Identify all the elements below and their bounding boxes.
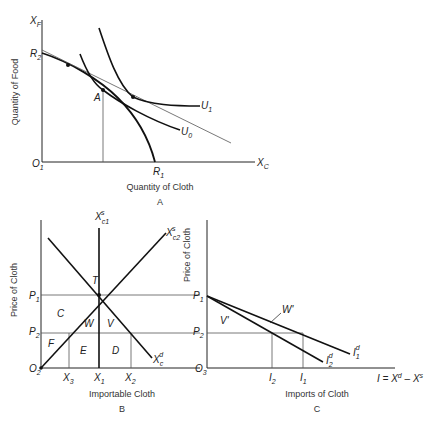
label-xc-demand: Xcd xyxy=(152,351,164,367)
area-e: E xyxy=(80,345,87,356)
label-i1: I1 xyxy=(300,372,307,385)
production-possibility-frontier xyxy=(42,53,155,162)
area-t: T xyxy=(92,275,99,286)
label-r1: R1 xyxy=(153,166,164,179)
production-point xyxy=(66,63,70,67)
label-x2: X2 xyxy=(124,372,136,385)
y-axis-label-b: Price of Cloth xyxy=(9,263,19,317)
label-p2-b: P2 xyxy=(29,326,40,339)
label-p2-c: P2 xyxy=(193,326,204,339)
caption-a: A xyxy=(157,197,163,207)
label-xc2-supply: Xc2s xyxy=(165,225,180,241)
diagram-canvas: XF R2 A U1 U0 O1 R1 XC Quantity of Cloth… xyxy=(0,0,437,422)
point-a xyxy=(101,88,105,92)
x-axis-symbol-a: XC xyxy=(256,157,270,170)
panel-b: Xc1s Xc2s Xcd P1 P2 O2 X3 X1 X2 T C W V … xyxy=(9,209,200,414)
area-w: W xyxy=(84,318,95,329)
x-axis-label-c: Imports of Cloth xyxy=(285,389,349,399)
label-i2: I2 xyxy=(269,372,276,385)
area-w-prime: W' xyxy=(282,304,294,315)
label-i1-demand: I1d xyxy=(353,344,361,360)
label-p1-c: P1 xyxy=(193,290,204,303)
area-c: C xyxy=(57,308,65,319)
y-axis-symbol-a: XF xyxy=(29,15,42,28)
label-u1: U1 xyxy=(201,100,212,113)
x-axis-label-a: Quantity of Cloth xyxy=(126,182,193,192)
x-axis-label-b: Importable Cloth xyxy=(89,389,155,399)
panel-a: XF R2 A U1 U0 O1 R1 XC Quantity of Cloth… xyxy=(10,15,270,207)
import-demand-i2 xyxy=(207,296,323,362)
y-axis-label-a: Quantity of Food xyxy=(10,59,20,126)
label-u0: U0 xyxy=(181,126,192,139)
caption-c: C xyxy=(314,404,321,414)
label-x3: X3 xyxy=(62,372,74,385)
caption-b: B xyxy=(119,404,125,414)
equilibrium-point-b xyxy=(97,293,101,297)
demand-curve-xc xyxy=(48,238,152,358)
label-i2-demand: I2d xyxy=(326,352,334,368)
panel-c: P1 P2 O3 I2 I1 V' W' I1d I2d I = Xd – Xs… xyxy=(182,220,424,414)
y-axis-label-c: Price of Cloth xyxy=(182,228,192,282)
origin-o3: O3 xyxy=(195,363,207,376)
area-d: D xyxy=(112,345,119,356)
label-r2: R2 xyxy=(30,48,41,61)
label-p1-b: P1 xyxy=(29,290,40,303)
consumption-point xyxy=(131,95,135,99)
label-x1: X1 xyxy=(93,372,105,385)
x-axis-equation-c: I = Xd – Xs xyxy=(377,372,424,384)
label-xc1-supply: Xc1s xyxy=(94,209,109,225)
area-f: F xyxy=(48,338,55,349)
label-a: A xyxy=(93,92,101,103)
area-v: V xyxy=(107,318,115,329)
origin-o2: O2 xyxy=(29,363,41,376)
area-v-prime: V' xyxy=(220,315,230,326)
leader-w-prime xyxy=(270,313,281,323)
price-line xyxy=(42,50,231,143)
supply-curve-xc2 xyxy=(41,233,166,368)
